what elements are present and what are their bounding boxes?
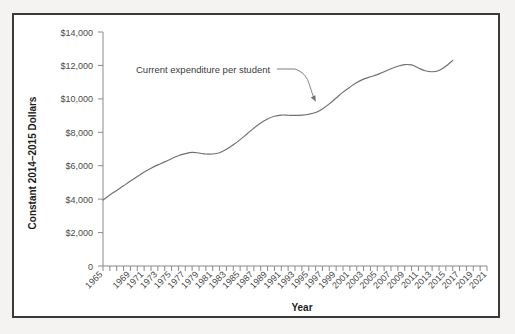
y-tick-label: $8,000 (65, 128, 93, 138)
y-axis-ticks (98, 32, 103, 266)
y-tick-label: 0 (88, 262, 93, 272)
x-tick-label: 1965 (83, 269, 104, 290)
x-axis-ticks (103, 266, 487, 271)
y-tick-label: $2,000 (65, 228, 93, 238)
y-tick-label: $14,000 (60, 28, 93, 38)
y-tick-label: $4,000 (65, 195, 93, 205)
y-tick-label: $12,000 (60, 61, 93, 71)
x-axis-title: Year (291, 302, 312, 313)
data-series-line (103, 60, 453, 200)
y-axis-tick-labels: $14,000 $12,000 $10,000 $8,000 $6,000 $4… (60, 28, 93, 272)
chart-figure: Constant 2014–2015 Dollars $14,000 $12,0… (12, 13, 500, 318)
y-tick-label: $10,000 (60, 94, 93, 104)
y-axis-title: Constant 2014–2015 Dollars (27, 96, 38, 229)
annotation-leader-line (277, 69, 316, 101)
annotation-label: Current expenditure per student (136, 64, 270, 75)
line-chart: Constant 2014–2015 Dollars $14,000 $12,0… (14, 15, 498, 316)
y-tick-label: $6,000 (65, 161, 93, 171)
x-axis-tick-labels: 1965196919711973197519771979198119831985… (83, 269, 488, 290)
